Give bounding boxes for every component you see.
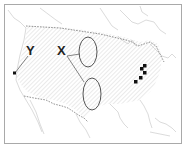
square-marker-icon [139,76,143,80]
square-marker-icon [143,64,147,68]
square-marker-icon [140,67,144,71]
west-coast-point-icon [13,72,16,75]
map-canvas [0,0,185,149]
us-hatched-region [16,26,162,118]
label-y: Y [26,44,35,57]
square-marker-icon [134,80,138,84]
square-marker-icon [143,71,147,75]
label-x: X [57,44,66,57]
